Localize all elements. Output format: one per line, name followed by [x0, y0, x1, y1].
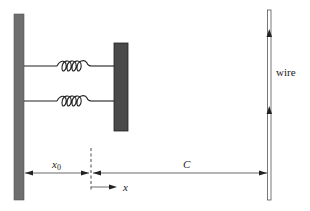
- x0-label: x0: [52, 159, 61, 172]
- movable-block: [114, 43, 128, 131]
- wire-label: wire: [276, 67, 296, 78]
- x-axis-label: x: [123, 182, 128, 193]
- x-axis-arrow: [91, 185, 117, 190]
- spring-mass-wire-diagram: [0, 0, 310, 211]
- upper-spring: [24, 61, 114, 71]
- lower-spring: [24, 96, 114, 106]
- dimension-c: [93, 171, 267, 176]
- x0-label-subscript: 0: [57, 163, 61, 172]
- wire: [268, 10, 272, 200]
- c-distance-label: C: [183, 159, 190, 170]
- fixed-wall: [14, 14, 24, 200]
